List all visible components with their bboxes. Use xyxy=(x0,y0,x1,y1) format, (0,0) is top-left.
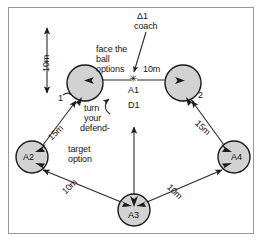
annotation-face-line3: options xyxy=(96,64,124,74)
diagram-root: ✳ A1 D1 Δ1 coach face the ball options 1… xyxy=(0,0,264,243)
annotation-turn-line2: your xyxy=(84,113,101,123)
label-d1: D1 xyxy=(128,100,139,110)
label-a3: A3 xyxy=(128,210,139,220)
diagram-canvas xyxy=(0,0,264,243)
distance-vertical-left: 10m xyxy=(41,55,51,72)
annotation-face-line2: ball xyxy=(96,54,110,64)
label-player-2: 2 xyxy=(198,90,203,100)
line-a3-to-a2 xyxy=(43,170,121,202)
annotation-target-line2: option xyxy=(68,154,92,164)
curved-arrow-turn xyxy=(105,99,110,114)
annotation-target-line1: target xyxy=(68,144,90,154)
distance-center-right: 10m xyxy=(143,64,160,74)
annotation-face-line1: face the xyxy=(96,44,127,54)
label-a4: A4 xyxy=(231,152,242,162)
annotation-turn-line3: defend- xyxy=(80,123,110,133)
label-a1: A1 xyxy=(128,85,139,95)
ball-marker-icon: ✳ xyxy=(129,74,137,84)
annotation-coach-line2: coach xyxy=(134,21,158,31)
annotation-coach-line1: Δ1 xyxy=(137,11,148,21)
label-player-1: 1 xyxy=(58,93,63,103)
label-a2: A2 xyxy=(23,152,34,162)
line-a2-to-player1 xyxy=(43,101,76,145)
player-circle-2[interactable] xyxy=(165,65,201,101)
line-a3-to-a4 xyxy=(147,170,222,202)
annotation-turn-line1: turn xyxy=(84,103,99,113)
